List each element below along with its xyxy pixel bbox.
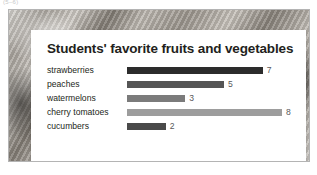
bar-value-label: 7 xyxy=(267,63,272,77)
bar-category-label: cucumbers xyxy=(47,119,127,133)
chart-title: Students' favorite fruits and vegetables xyxy=(47,41,293,56)
bar-track: 5 xyxy=(127,77,298,91)
bar-category-label: cherry tomatoes xyxy=(47,105,127,119)
bar-fill xyxy=(127,109,282,116)
bar-value-label: 3 xyxy=(189,91,194,105)
chart-card: Students' favorite fruits and vegetables… xyxy=(31,30,306,162)
bar-fill xyxy=(127,81,224,88)
bar-category-label: strawberries xyxy=(47,63,127,77)
bar-chart-plot: strawberries7peaches5watermelons3cherry … xyxy=(47,63,298,156)
bar-track: 3 xyxy=(127,91,298,105)
bar-row: strawberries7 xyxy=(47,63,298,77)
bar-track: 7 xyxy=(127,63,298,77)
bar-category-label: peaches xyxy=(47,77,127,91)
bar-value-label: 8 xyxy=(286,105,291,119)
page-marker: (5–6) xyxy=(3,0,19,5)
bar-track: 2 xyxy=(127,119,298,133)
bar-row: cherry tomatoes8 xyxy=(47,105,298,119)
bar-row: peaches5 xyxy=(47,77,298,91)
bar-fill xyxy=(127,95,185,102)
bar-fill xyxy=(127,67,263,74)
bar-row: watermelons3 xyxy=(47,91,298,105)
photo-frame: Students' favorite fruits and vegetables… xyxy=(8,9,310,162)
bar-row: cucumbers2 xyxy=(47,119,298,133)
bar-fill xyxy=(127,123,166,130)
bar-value-label: 5 xyxy=(228,77,233,91)
bar-category-label: watermelons xyxy=(47,91,127,105)
bar-value-label: 2 xyxy=(170,119,175,133)
bar-track: 8 xyxy=(127,105,298,119)
